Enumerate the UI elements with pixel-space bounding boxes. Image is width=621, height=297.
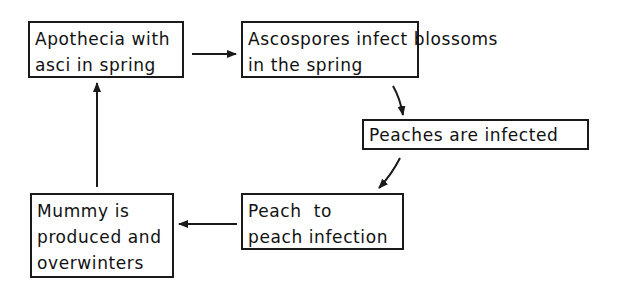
node-text-line: asci in spring bbox=[35, 52, 177, 78]
node-apothecia: Apothecia with asci in spring bbox=[28, 21, 184, 78]
node-mummy: Mummy is produced and overwinters bbox=[30, 193, 174, 278]
arrow-peaches-infected-to-peach-to-peach bbox=[379, 158, 400, 188]
node-text-line: overwinters bbox=[37, 250, 167, 276]
arrow-ascospores-to-peaches-infected bbox=[393, 86, 403, 115]
node-text-line: Peach to bbox=[248, 198, 397, 224]
node-text-line: Ascospores infect blossoms bbox=[248, 26, 412, 52]
node-text-line: Mummy is bbox=[37, 198, 167, 224]
node-ascospores: Ascospores infect blossoms in the spring bbox=[241, 21, 419, 78]
node-text-line: Apothecia with bbox=[35, 26, 177, 52]
node-peach-to-peach: Peach to peach infection bbox=[241, 193, 404, 250]
node-text-line: peach infection bbox=[248, 224, 397, 250]
node-text-line: Peaches are infected bbox=[369, 122, 582, 148]
node-text-line: in the spring bbox=[248, 52, 412, 78]
node-text-line: produced and bbox=[37, 224, 167, 250]
node-peaches-infected: Peaches are infected bbox=[362, 119, 589, 150]
